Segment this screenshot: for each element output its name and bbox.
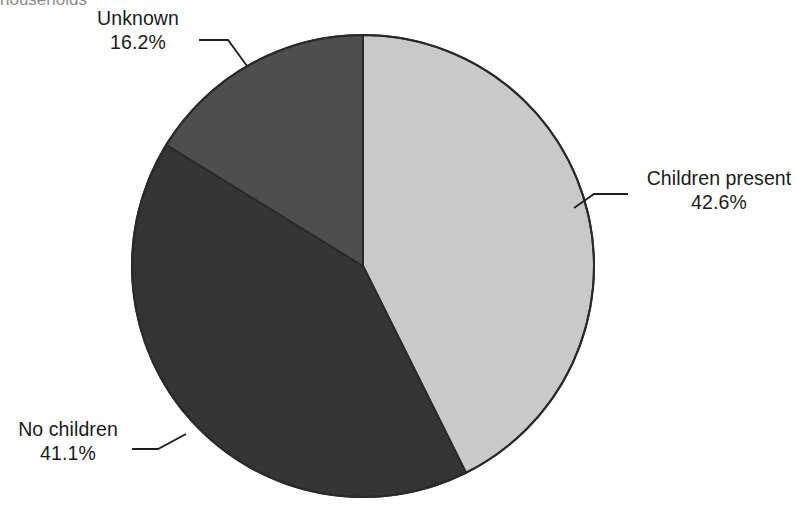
slice-label-unknown-name: Unknown [78,6,198,30]
slice-label-children-present-name: Children present [633,166,805,190]
slice-label-unknown: Unknown 16.2% [78,6,198,54]
leader-line-unknown [199,40,247,66]
pie-chart-page: households Unknown 16.2% Children presen… [0,0,809,510]
slice-label-children-present: Children present 42.6% [633,166,805,214]
slice-label-unknown-value: 16.2% [78,30,198,54]
slice-label-no-children: No children 41.1% [4,417,132,465]
slice-label-no-children-name: No children [4,417,132,441]
leader-line-no-children [132,434,186,449]
slice-label-no-children-value: 41.1% [4,441,132,465]
slice-label-children-present-value: 42.6% [633,190,805,214]
